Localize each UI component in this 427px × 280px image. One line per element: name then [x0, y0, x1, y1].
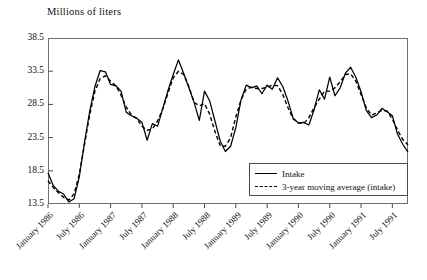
legend: Intake 3-year moving average (intake) — [249, 163, 408, 196]
legend-item-intake: Intake — [255, 167, 403, 180]
chart-container: Millions of liters 13.518.523.528.533.53… — [0, 0, 427, 280]
legend-swatch-solid-icon — [255, 169, 277, 179]
legend-item-moving-average: 3-year moving average (intake) — [255, 180, 403, 193]
legend-swatch-dashed-icon — [255, 182, 277, 192]
legend-label-moving-average: 3-year moving average (intake) — [282, 182, 395, 192]
legend-label-intake: Intake — [282, 169, 305, 179]
chart-lines-layer — [0, 0, 427, 280]
